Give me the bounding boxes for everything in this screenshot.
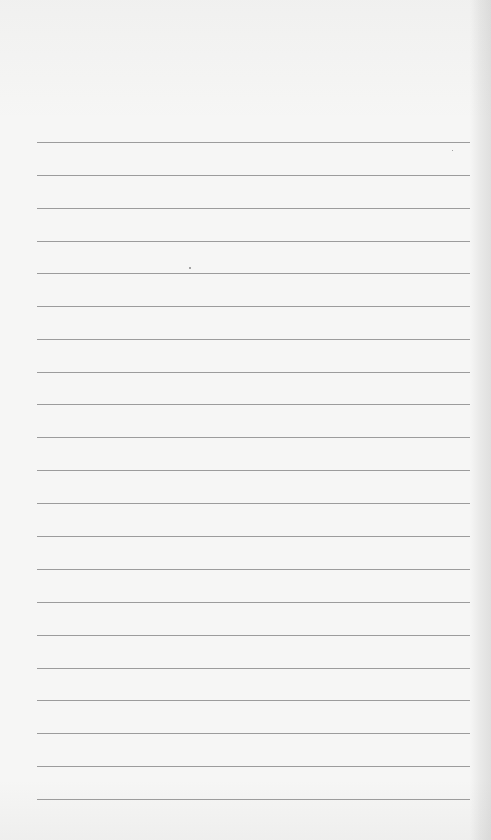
bleed-through-text — [40, 30, 460, 100]
ruled-line — [37, 536, 470, 537]
paper-speck — [189, 267, 191, 269]
ruled-line — [37, 339, 470, 340]
ruled-line — [37, 404, 470, 405]
ruled-line — [37, 241, 470, 242]
ruled-line — [37, 733, 470, 734]
ruled-line — [37, 306, 470, 307]
ruled-line — [37, 602, 470, 603]
ruled-line — [37, 175, 470, 176]
ruled-line — [37, 142, 470, 143]
paper-speck — [452, 150, 453, 151]
ruled-line — [37, 372, 470, 373]
ruled-line — [37, 700, 470, 701]
ruled-line — [37, 470, 470, 471]
ruled-line — [37, 635, 470, 636]
ruled-line — [37, 273, 470, 274]
ruled-line — [37, 799, 470, 800]
ruled-line — [37, 437, 470, 438]
ruled-line — [37, 569, 470, 570]
ruled-line — [37, 668, 470, 669]
ruled-line — [37, 766, 470, 767]
lined-paper-page — [0, 0, 491, 840]
ruled-line — [37, 503, 470, 504]
ruled-line — [37, 208, 470, 209]
